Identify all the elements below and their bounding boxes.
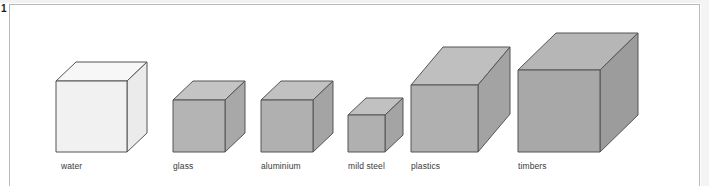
cube-mild-steel bbox=[346, 96, 405, 154]
cube-label-aluminium: aluminium bbox=[261, 161, 301, 171]
figure-container: 1 waterglassaluminiummild steelplasticst… bbox=[0, 0, 709, 186]
cube-mild-steel-front-face bbox=[348, 115, 385, 152]
cube-water-front-face bbox=[56, 81, 127, 152]
cube-aluminium bbox=[259, 79, 335, 154]
cube-label-glass: glass bbox=[173, 161, 193, 171]
cube-glass bbox=[171, 79, 247, 154]
cube-diagram-layer: waterglassaluminiummild steelplasticstim… bbox=[0, 0, 709, 186]
cube-water bbox=[54, 60, 149, 154]
cube-aluminium-front-face bbox=[261, 100, 313, 152]
cube-label-plastics: plastics bbox=[411, 161, 440, 171]
cube-label-timbers: timbers bbox=[518, 161, 547, 171]
cube-timbers bbox=[516, 31, 640, 154]
cube-plastics bbox=[409, 45, 512, 154]
cube-plastics-front-face bbox=[411, 85, 478, 152]
cube-glass-front-face bbox=[173, 100, 225, 152]
cube-label-mild-steel: mild steel bbox=[348, 161, 385, 171]
cube-timbers-front-face bbox=[518, 70, 600, 152]
cube-label-water: water bbox=[61, 161, 82, 171]
